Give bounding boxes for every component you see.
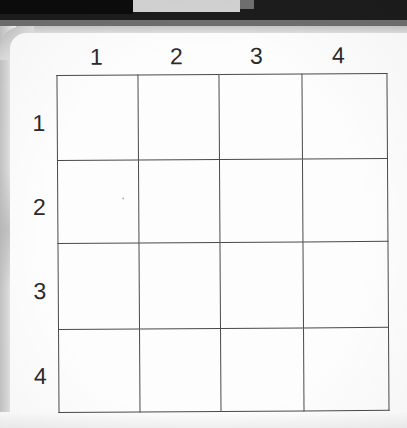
row-header-2: 2	[23, 194, 55, 220]
grid-cell-r2c2[interactable]	[138, 159, 220, 242]
grid-cell-r2c4[interactable]	[302, 158, 388, 242]
worksheet-photo-scene: 1 2 3 4 1 2 3 4	[0, 0, 407, 428]
column-header-row: 1 2 3 4	[56, 41, 382, 73]
grid-cell-r4c3[interactable]	[221, 328, 305, 412]
table-row	[57, 73, 388, 160]
background-object	[133, 0, 240, 12]
grid-cell-r3c4[interactable]	[303, 241, 389, 328]
table-row	[59, 327, 390, 412]
row-header-column: 1 2 3 4	[22, 75, 56, 408]
table-row	[58, 241, 389, 329]
table-row	[57, 158, 388, 243]
grid-cell-r3c3[interactable]	[220, 242, 304, 329]
grid-table	[56, 73, 389, 413]
grid-cell-r4c1[interactable]	[59, 329, 141, 412]
background-object-secondary	[240, 0, 254, 9]
grid-cell-r1c4[interactable]	[302, 73, 388, 159]
paper-left-smudge	[0, 170, 10, 290]
grid-cell-r4c2[interactable]	[140, 328, 222, 411]
column-header-4: 4	[318, 41, 358, 69]
grid-cell-r1c3[interactable]	[219, 74, 303, 160]
row-header-4: 4	[24, 363, 56, 389]
row-header-3: 3	[24, 278, 56, 304]
grid-cell-r3c1[interactable]	[58, 243, 140, 329]
grid-cell-r1c1[interactable]	[57, 75, 139, 160]
stray-pencil-dot	[122, 197, 124, 199]
grid-cell-r2c1[interactable]	[57, 160, 139, 243]
column-header-2: 2	[156, 42, 196, 70]
grid-cell-r3c2[interactable]	[139, 242, 221, 328]
row-header-1: 1	[23, 110, 55, 136]
grid-cell-r2c3[interactable]	[219, 159, 303, 243]
grid-cell-r4c4[interactable]	[304, 327, 390, 411]
background-dark-band-left	[0, 0, 133, 14]
column-header-1: 1	[76, 43, 116, 71]
grid-cell-r1c2[interactable]	[138, 74, 220, 159]
grid-container	[56, 73, 384, 408]
column-header-3: 3	[236, 42, 276, 70]
paper-bottom-shading	[0, 412, 407, 428]
